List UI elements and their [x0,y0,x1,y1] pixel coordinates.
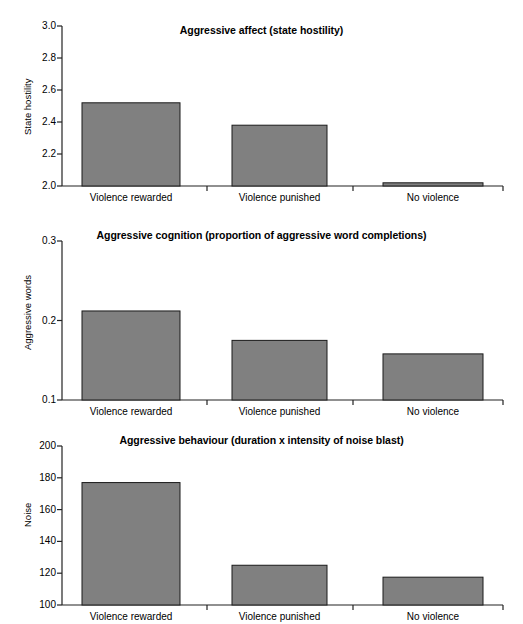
plot-area [0,0,523,210]
bar [82,103,180,186]
y-tick-label: 0.3 [10,235,56,246]
y-tick-label: 2.2 [10,148,56,159]
x-tick-label: Violence punished [210,406,350,417]
y-tick-label: 0.1 [10,394,56,405]
bar [232,565,327,605]
x-tick-label: Violence punished [210,611,350,622]
y-tick-label: 200 [10,440,56,451]
y-tick-label: 160 [10,504,56,515]
bar [82,483,180,605]
bar [383,183,483,186]
y-tick-label: 2.8 [10,52,56,63]
y-tick-label: 180 [10,472,56,483]
bar [383,354,483,400]
bar [82,311,180,400]
x-tick-label: No violence [363,611,503,622]
figure-root: Aggressive affect (state hostility) Stat… [0,0,523,624]
chart-panel-aggressive-behaviour: Aggressive behaviour (duration x intensi… [0,417,523,624]
y-tick-label: 0.2 [10,315,56,326]
x-tick-label: No violence [363,406,503,417]
y-tick-label: 100 [10,599,56,610]
plot-area [0,210,523,417]
x-tick-label: Violence rewarded [61,611,201,622]
x-tick-label: Violence punished [210,192,350,203]
bar [232,340,327,400]
bar [232,125,327,186]
y-tick-label: 2.4 [10,116,56,127]
x-tick-label: Violence rewarded [61,192,201,203]
bar [383,577,483,605]
y-tick-label: 2.0 [10,180,56,191]
chart-panel-aggressive-affect: Aggressive affect (state hostility) Stat… [0,0,523,210]
chart-panel-aggressive-cognition: Aggressive cognition (proportion of aggr… [0,210,523,417]
y-tick-label: 2.6 [10,84,56,95]
y-tick-label: 140 [10,535,56,546]
y-tick-label: 120 [10,567,56,578]
plot-area [0,417,523,624]
x-tick-label: Violence rewarded [61,406,201,417]
y-tick-label: 3.0 [10,20,56,31]
x-tick-label: No violence [363,192,503,203]
